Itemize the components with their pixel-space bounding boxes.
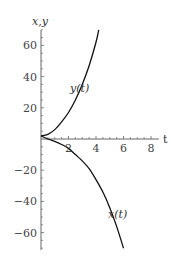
chart: 604020−20−40−602468x,yty(t)x(t) xyxy=(0,0,171,263)
x-tick-label: 2 xyxy=(65,142,72,155)
x-curve-label: x(t) xyxy=(108,208,127,221)
y-tick-label: 60 xyxy=(23,39,37,52)
x-tick-label: 8 xyxy=(148,142,155,155)
y-axis-label: x,y xyxy=(32,15,49,28)
y-curve-label: y(t) xyxy=(69,82,89,95)
y-tick-label: 20 xyxy=(23,102,37,115)
x-axis-label: t xyxy=(163,133,168,146)
x-tick-label: 4 xyxy=(93,142,100,155)
axes xyxy=(41,30,159,250)
y-tick-label: −60 xyxy=(14,227,37,240)
x-curve xyxy=(41,136,124,248)
y-tick-label: 40 xyxy=(23,71,37,84)
y-tick-label: −20 xyxy=(14,164,37,177)
y-tick-label: −40 xyxy=(14,195,37,208)
labels: 604020−20−40−602468x,yty(t)x(t) xyxy=(14,15,168,240)
x-tick-label: 6 xyxy=(120,142,127,155)
